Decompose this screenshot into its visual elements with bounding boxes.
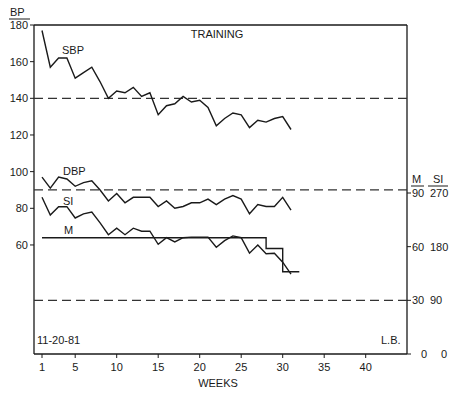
series-label-si: SI xyxy=(63,195,73,207)
y-left-tick-label: 80 xyxy=(16,202,28,214)
series-lines xyxy=(42,31,299,275)
series-line-dbp xyxy=(42,177,291,214)
x-axis-ticks: 1510152025303540 xyxy=(39,354,372,373)
y-right-axis-title-si: SI xyxy=(433,173,443,185)
y-right-tick-label-m: 30 xyxy=(412,294,424,306)
x-tick-label: 10 xyxy=(111,361,123,373)
y-left-axis-ticks: 6080100120140160180 xyxy=(10,19,34,251)
x-axis-title: WEEKS xyxy=(198,377,238,389)
x-tick-label: 25 xyxy=(235,361,247,373)
initials-annotation: L.B. xyxy=(381,334,401,346)
series-label-m: M xyxy=(64,224,73,236)
x-tick-label: 5 xyxy=(72,361,78,373)
y-left-tick-label: 140 xyxy=(10,92,28,104)
y-right-tick-label-si: 180 xyxy=(430,241,448,253)
x-tick-label: 35 xyxy=(318,361,330,373)
y-left-tick-label: 120 xyxy=(10,129,28,141)
series-line-m xyxy=(42,238,299,272)
x-tick-label: 1 xyxy=(39,361,45,373)
y-left-tick-label: 100 xyxy=(10,166,28,178)
series-label-dbp: DBP xyxy=(63,165,86,177)
y-left-tick-label: 60 xyxy=(16,239,28,251)
y-left-tick-label: 160 xyxy=(10,56,28,68)
y-right-tick-label-si: 0 xyxy=(441,348,447,360)
y-left-axis-title: BP xyxy=(10,6,25,18)
chart-title: TRAINING xyxy=(191,28,244,40)
y-right-tick-label-m: 0 xyxy=(421,348,427,360)
x-tick-label: 40 xyxy=(360,361,372,373)
y-right-tick-label-si: 90 xyxy=(430,294,442,306)
x-tick-label: 20 xyxy=(194,361,206,373)
y-right-tick-label-m: 60 xyxy=(412,241,424,253)
x-tick-label: 30 xyxy=(277,361,289,373)
date-annotation: 11-20-81 xyxy=(37,334,80,346)
reference-lines xyxy=(34,98,407,300)
y-right-tick-label-m: 90 xyxy=(412,187,424,199)
chart: BP 6080100120140160180 0030906018090270 … xyxy=(0,0,458,395)
y-right-axis-title-m: M xyxy=(412,173,421,185)
y-right-axis-ticks: 0030906018090270 xyxy=(407,187,448,360)
y-left-tick-label: 180 xyxy=(10,19,28,31)
x-tick-label: 15 xyxy=(152,361,164,373)
y-right-tick-label-si: 270 xyxy=(430,187,448,199)
series-label-sbp: SBP xyxy=(62,44,84,56)
